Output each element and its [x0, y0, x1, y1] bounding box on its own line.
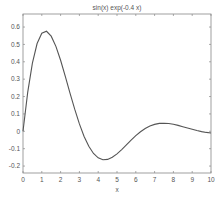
y-tick-label: 0.3 [11, 75, 20, 82]
x-tick-label: 0 [21, 176, 25, 183]
x-tick-label: 9 [190, 176, 194, 183]
y-tick-label: 0.6 [11, 23, 20, 30]
x-tick-label: 1 [40, 176, 44, 183]
x-tick-label: 5 [115, 176, 119, 183]
y-tick-label: 0.1 [11, 110, 20, 117]
x-tick-label: 4 [96, 176, 100, 183]
y-tick-label: 0.4 [11, 58, 20, 65]
y-tick-label: 0.2 [11, 93, 20, 100]
y-tick-label: -0.1 [9, 145, 21, 152]
x-tick-label: 7 [153, 176, 157, 183]
x-tick-label: 2 [59, 176, 63, 183]
y-tick-label: -0.2 [9, 162, 21, 169]
y-tick-label: 0 [16, 128, 20, 135]
chart-title: sin(x) exp(-0.4 x) [93, 4, 142, 12]
plot-area [23, 14, 211, 173]
x-tick-label: 10 [207, 176, 215, 183]
x-tick-label: 3 [78, 176, 82, 183]
x-tick-label: 8 [172, 176, 176, 183]
y-tick-label: 0.5 [11, 41, 20, 48]
line-chart: 012345678910 -0.2-0.100.10.20.30.40.50.6… [0, 0, 224, 199]
x-tick-label: 6 [134, 176, 138, 183]
x-axis-label: x [115, 186, 119, 193]
